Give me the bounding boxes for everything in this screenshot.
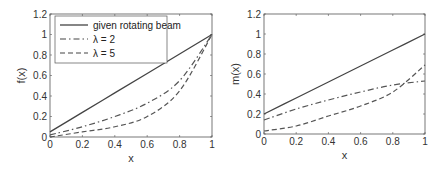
chart-figure: 00.20.40.60.8100.20.40.60.811.2xf(x)give… [0,0,448,171]
y-tick-label: 0.6 [33,70,47,81]
legend: given rotating beamλ = 2λ = 5 [55,16,181,63]
plot-f: 00.20.40.60.8100.20.40.60.811.2xf(x)give… [15,9,215,165]
y-tick-label: 0.2 [33,111,47,122]
x-tick-label: 0.8 [386,136,400,147]
x-tick-label: 0.2 [75,139,89,150]
y-axis-label: f(x) [15,68,27,84]
x-tick-label: 1 [209,139,215,150]
y-tick-label: 1.2 [33,9,47,20]
x-tick-label: 0.4 [108,139,122,150]
y-axis-label: m(x) [229,63,241,85]
plot-m: 00.20.40.60.8100.20.40.60.811.2xm(x) [229,9,428,162]
x-tick-label: 0 [47,139,53,150]
legend-entry: given rotating beam [93,20,181,31]
x-tick-label: 0.4 [321,136,335,147]
y-tick-label: 1 [41,29,47,40]
y-tick-label: 0.4 [33,91,47,102]
x-tick-label: 0 [261,136,267,147]
y-tick-label: 0.8 [247,49,261,60]
x-axis-label: x [342,149,348,161]
legend-entry: λ = 2 [93,34,115,45]
legend-entry: λ = 5 [93,48,115,59]
y-tick-label: 0.6 [247,69,261,80]
x-tick-label: 0.2 [289,136,303,147]
y-tick-label: 1.2 [247,9,261,20]
y-tick-label: 0.8 [33,50,47,61]
y-tick-label: 0 [255,129,261,140]
y-tick-label: 0 [41,132,47,143]
x-axis-label: x [128,152,134,164]
series-line [264,34,425,114]
series-line [264,65,425,131]
x-tick-label: 0.6 [140,139,154,150]
y-tick-label: 0.2 [247,109,261,120]
x-tick-label: 0.6 [354,136,368,147]
x-tick-label: 1 [422,136,428,147]
y-tick-label: 1 [255,29,261,40]
x-tick-label: 0.8 [173,139,187,150]
y-tick-label: 0.4 [247,89,261,100]
